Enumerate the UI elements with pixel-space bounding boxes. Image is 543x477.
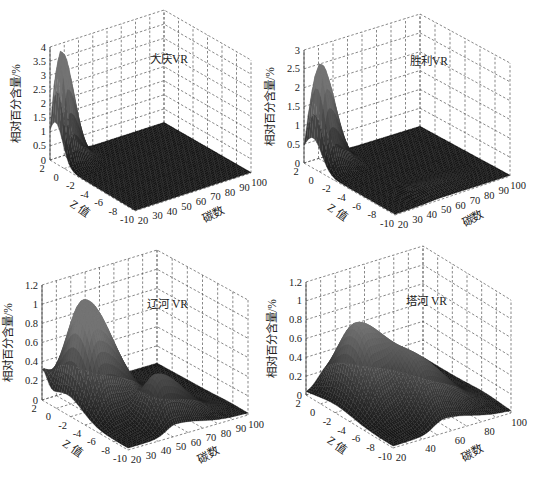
x-tick-label: 30 — [412, 214, 423, 225]
z-tick-label: 0.5 — [287, 139, 300, 150]
z-tick-label: 0.6 — [289, 333, 302, 344]
x-tick-label: 70 — [210, 191, 221, 202]
z-tick-label: 0.5 — [33, 140, 46, 151]
z-tick-label: 3 — [295, 45, 300, 56]
y-tick-label: 0 — [310, 407, 315, 418]
z-tick-label: 2.5 — [287, 63, 300, 74]
z-tick-label: 0.4 — [25, 356, 39, 367]
y-tick-label: -2 — [322, 183, 331, 194]
x-tick-label: 30 — [146, 450, 157, 461]
y-tick-label: -4 — [337, 192, 346, 203]
y-tick-label: 0 — [54, 172, 59, 183]
panel-daqing-vr: 00.511.522.533.5420-2-4-6-8-102030405060… — [9, 10, 267, 226]
y-tick-label: -6 — [87, 436, 96, 447]
z-tick-label: 3 — [41, 70, 46, 81]
panel-title: 塔河 VR — [406, 295, 447, 307]
z-tick-label: 1 — [33, 299, 38, 310]
x-tick-label: 90 — [236, 423, 247, 434]
x-tick-label: 50 — [441, 204, 452, 215]
x-tick-label: 80 — [221, 428, 232, 439]
z-tick-label: 2 — [295, 82, 300, 93]
y-tick-label: -8 — [367, 209, 376, 220]
x-tick-label: 40 — [427, 209, 438, 220]
x-tick-label: 40 — [161, 445, 172, 456]
panel-title: 大庆VR — [150, 52, 188, 65]
y-tick-label: 2 — [31, 403, 36, 414]
surface-plot — [50, 51, 251, 210]
y-tick-label: -4 — [337, 425, 346, 436]
x-tick-label: 60 — [455, 435, 466, 446]
z-tick-label: 1 — [295, 120, 300, 131]
x-tick-label: 70 — [470, 195, 481, 206]
z-tick-label: 2.5 — [33, 84, 46, 95]
x-tick-label: 60 — [196, 196, 207, 207]
y-axis-label: Z 值 — [60, 437, 85, 459]
x-tick-label: 40 — [167, 206, 178, 217]
panel-tahe-vr: 00.20.40.60.811.220-2-4-6-8-102040608010… — [265, 246, 527, 463]
x-tick-label: 30 — [152, 210, 163, 221]
y-tick-label: -4 — [73, 428, 82, 439]
y-tick-label: -10 — [378, 451, 392, 462]
y-axis-label: Z 值 — [325, 434, 350, 456]
y-tick-label: 2 — [39, 163, 44, 174]
z-tick-label: 0.4 — [289, 352, 303, 363]
figure-4-panel-3d-surfaces: 00.511.522.533.5420-2-4-6-8-102030405060… — [0, 0, 543, 477]
z-tick-label: 1 — [41, 126, 46, 137]
x-tick-label: 20 — [131, 454, 142, 465]
y-axis-label: Z 值 — [325, 201, 350, 223]
z-tick-label: 0.2 — [289, 371, 302, 382]
z-axis-label: 相对百分含量/% — [263, 67, 276, 146]
panel-title: 胜利VR — [410, 54, 448, 67]
z-tick-label: 0.6 — [25, 337, 38, 348]
x-tick-label: 20 — [396, 452, 407, 463]
y-tick-label: -6 — [94, 197, 103, 208]
y-tick-label: -2 — [323, 416, 332, 427]
y-tick-label: 0 — [46, 411, 51, 422]
z-axis-label: 相对百分含量/% — [265, 299, 278, 378]
z-tick-label: 3.5 — [33, 56, 46, 67]
surface-plot — [42, 299, 248, 448]
y-tick-label: -4 — [80, 189, 89, 200]
x-tick-label: 80 — [484, 190, 495, 201]
panel-liaohe-vr: 00.20.40.60.811.220-2-4-6-8-102030405060… — [1, 250, 264, 465]
y-tick-label: 0 — [309, 175, 314, 186]
z-tick-label: 1.2 — [289, 277, 302, 288]
y-tick-label: 2 — [293, 166, 298, 177]
z-axis-label: 相对百分含量/% — [9, 64, 22, 143]
y-tick-label: -6 — [352, 201, 361, 212]
z-tick-label: 0.8 — [25, 318, 38, 329]
x-tick-label: 90 — [239, 182, 250, 193]
z-tick-label: 0.2 — [25, 375, 38, 386]
z-tick-label: 1.5 — [33, 112, 46, 123]
y-tick-label: -8 — [108, 206, 117, 217]
x-tick-label: 50 — [176, 441, 187, 452]
y-tick-label: -10 — [113, 453, 127, 464]
x-tick-label: 100 — [248, 419, 264, 430]
z-tick-label: 1.5 — [287, 101, 300, 112]
x-tick-label: 20 — [138, 215, 149, 226]
y-tick-label: -2 — [58, 420, 67, 431]
x-tick-label: 20 — [398, 219, 409, 230]
y-tick-label: 2 — [295, 398, 300, 409]
x-tick-label: 100 — [510, 180, 526, 191]
x-tick-label: 60 — [455, 200, 466, 211]
y-tick-label: -6 — [352, 433, 361, 444]
x-tick-label: 80 — [225, 187, 236, 198]
x-tick-label: 40 — [425, 443, 436, 454]
y-tick-label: -10 — [120, 214, 134, 225]
x-tick-label: 90 — [498, 185, 509, 196]
x-tick-label: 70 — [206, 432, 217, 443]
y-tick-label: -10 — [380, 218, 394, 229]
z-tick-label: 0.8 — [289, 314, 302, 325]
x-tick-label: 80 — [484, 426, 495, 437]
z-axis-label: 相对百分含量/% — [1, 303, 14, 382]
y-tick-label: -8 — [366, 442, 375, 453]
y-axis-label: Z 值 — [68, 198, 93, 220]
y-tick-label: -8 — [101, 445, 110, 456]
z-tick-label: 1 — [297, 295, 302, 306]
x-tick-label: 60 — [191, 437, 202, 448]
surface-plot — [304, 64, 510, 214]
z-tick-label: 4 — [41, 42, 47, 53]
panel-title: 辽河 VR — [147, 298, 188, 310]
x-tick-label: 50 — [181, 201, 192, 212]
